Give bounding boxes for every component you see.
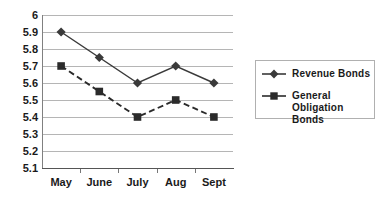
gridline (42, 15, 233, 16)
y-axis-tick-label: 5.6 (4, 78, 38, 89)
y-axis-tick-label: 5.5 (4, 95, 38, 106)
plot-area (42, 15, 233, 168)
y-axis-tick-label: 5.2 (4, 146, 38, 157)
gridline (42, 117, 233, 118)
gridline (42, 66, 233, 67)
x-axis-line (42, 168, 234, 169)
legend-label-general-obligation-bonds-line1: General (292, 90, 372, 102)
y-axis-tick-label: 5.7 (4, 61, 38, 72)
gridline (42, 32, 233, 33)
y-axis-tick-label: 5.3 (4, 129, 38, 140)
gridline (42, 83, 233, 84)
y-axis-labels: 65.95.85.75.65.55.45.35.25.1 (0, 0, 38, 204)
gridline (42, 100, 233, 101)
y-axis-tick-label: 5.4 (4, 112, 38, 123)
legend-entry-revenue-bonds: Revenue Bonds (256, 67, 374, 83)
x-axis-tick (157, 169, 158, 173)
gridline (42, 134, 233, 135)
line-chart: 65.95.85.75.65.55.45.35.25.1 MayJuneJuly… (0, 0, 385, 204)
y-axis-tick-label: 5.8 (4, 44, 38, 55)
gridline (42, 151, 233, 152)
x-axis-tick (80, 169, 81, 173)
legend-entry-general-obligation-bonds: General Obligation Bonds (256, 89, 374, 115)
x-axis-tick (195, 169, 196, 173)
y-axis-line (42, 15, 43, 169)
legend-label-general-obligation-bonds-line2: Obligation Bonds (292, 102, 372, 126)
y-axis-tick-label: 5.9 (4, 27, 38, 38)
gridline (42, 49, 233, 50)
legend-marker-diamond-icon (261, 67, 287, 81)
x-axis-label-sept: Sept (189, 176, 239, 188)
chart-legend: Revenue Bonds General Obligation Bonds (255, 60, 375, 119)
y-axis-tick-label: 6 (4, 10, 38, 21)
y-axis-tick-label: 5.1 (4, 163, 38, 174)
legend-marker-square-icon (261, 89, 287, 103)
x-axis-tick (118, 169, 119, 173)
legend-label-revenue-bonds: Revenue Bonds (292, 68, 372, 80)
